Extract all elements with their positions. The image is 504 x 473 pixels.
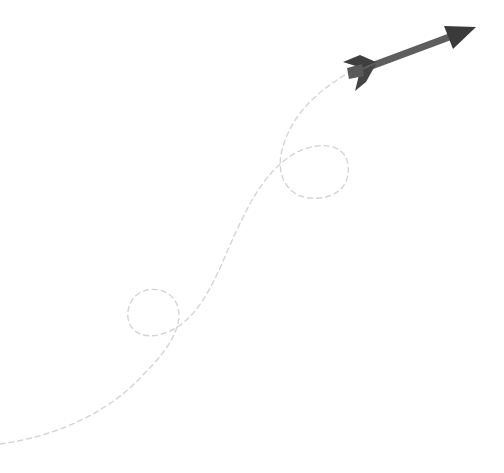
arrow-shaft <box>350 36 452 74</box>
arrow-icon <box>343 26 476 91</box>
illustration-canvas <box>0 0 504 473</box>
dashed-trail <box>0 72 350 444</box>
arrow-head <box>444 26 476 49</box>
